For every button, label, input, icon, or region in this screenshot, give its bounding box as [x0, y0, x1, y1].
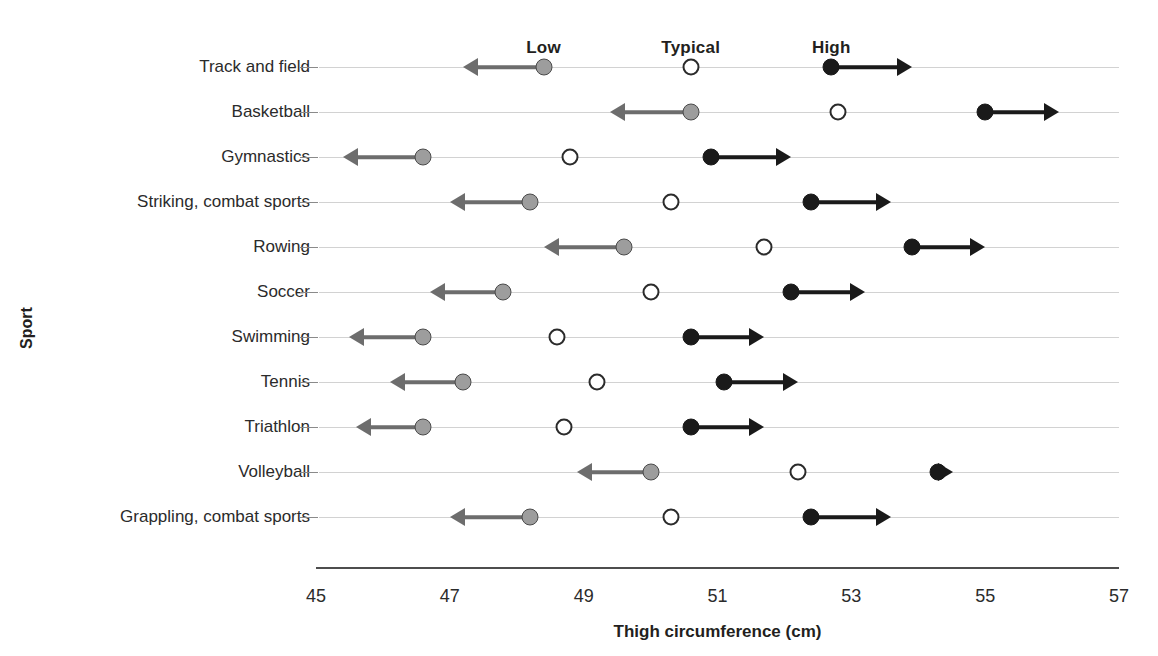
typical-marker: [829, 104, 846, 121]
high-arrow-head: [749, 418, 764, 436]
high-marker: [702, 149, 719, 166]
high-arrow-shaft: [691, 425, 753, 429]
high-arrow-head: [970, 238, 985, 256]
low-arrow-shaft: [589, 470, 651, 474]
low-marker: [615, 239, 632, 256]
high-arrow-shaft: [711, 155, 779, 159]
low-arrow-shaft: [442, 290, 504, 294]
low-marker: [415, 419, 432, 436]
typical-marker: [555, 419, 572, 436]
x-tick-label: 47: [440, 586, 460, 607]
low-arrow-shaft: [462, 515, 530, 519]
low-marker: [682, 104, 699, 121]
low-marker: [535, 59, 552, 76]
low-arrow-head: [450, 508, 465, 526]
high-marker: [823, 59, 840, 76]
row-gridline: [319, 67, 1119, 68]
high-arrow-shaft: [811, 200, 879, 204]
low-arrow-shaft: [475, 65, 543, 69]
column-header-high: High: [812, 38, 851, 58]
high-marker: [803, 194, 820, 211]
high-arrow-head: [938, 463, 953, 481]
x-tick-label: 51: [707, 586, 727, 607]
high-arrow-shaft: [938, 470, 939, 474]
high-marker: [783, 284, 800, 301]
high-arrow-head: [776, 148, 791, 166]
typical-marker: [662, 194, 679, 211]
category-label: Soccer: [257, 282, 314, 302]
low-arrow-shaft: [556, 245, 624, 249]
row-gridline: [319, 202, 1119, 203]
x-tick-label: 57: [1109, 586, 1129, 607]
low-arrow-shaft: [402, 380, 464, 384]
typical-marker: [756, 239, 773, 256]
high-arrow-head: [876, 508, 891, 526]
low-marker: [415, 149, 432, 166]
category-label: Striking, combat sports: [137, 192, 314, 212]
low-arrow-head: [450, 193, 465, 211]
category-label: Basketball: [232, 102, 314, 122]
chart-root: LowTypicalHigh Sport Track and fieldBask…: [0, 0, 1158, 656]
row-gridline: [319, 292, 1119, 293]
category-label: Track and field: [199, 57, 314, 77]
category-label: Rowing: [253, 237, 314, 257]
row-gridline: [319, 112, 1119, 113]
high-arrow-shaft: [831, 65, 899, 69]
low-arrow-head: [356, 418, 371, 436]
x-axis-line: [316, 567, 1119, 569]
column-header-low: Low: [526, 38, 561, 58]
category-label: Gymnastics: [221, 147, 314, 167]
high-marker: [682, 329, 699, 346]
high-marker: [903, 239, 920, 256]
x-tick-label: 45: [306, 586, 326, 607]
typical-marker: [589, 374, 606, 391]
row-gridline: [319, 247, 1119, 248]
category-label-column: Track and fieldBasketballGymnasticsStrik…: [0, 0, 314, 656]
low-arrow-shaft: [361, 335, 423, 339]
high-arrow-shaft: [912, 245, 974, 249]
high-arrow-shaft: [811, 515, 879, 519]
low-arrow-head: [577, 463, 592, 481]
row-gridline: [319, 382, 1119, 383]
high-marker: [716, 374, 733, 391]
category-label: Swimming: [232, 327, 314, 347]
column-header-typical: Typical: [661, 38, 720, 58]
high-arrow-shaft: [724, 380, 786, 384]
low-arrow-head: [544, 238, 559, 256]
row-gridline: [319, 157, 1119, 158]
low-arrow-shaft: [355, 155, 423, 159]
high-arrow-head: [897, 58, 912, 76]
high-arrow-head: [876, 193, 891, 211]
low-arrow-head: [343, 148, 358, 166]
high-arrow-head: [1044, 103, 1059, 121]
row-gridline: [319, 427, 1119, 428]
low-arrow-shaft: [368, 425, 423, 429]
high-arrow-head: [783, 373, 798, 391]
low-arrow-head: [349, 328, 364, 346]
typical-marker: [662, 509, 679, 526]
typical-marker: [642, 284, 659, 301]
low-arrow-head: [463, 58, 478, 76]
low-arrow-head: [390, 373, 405, 391]
low-marker: [522, 509, 539, 526]
low-marker: [455, 374, 472, 391]
typical-marker: [562, 149, 579, 166]
low-arrow-shaft: [462, 200, 530, 204]
low-marker: [495, 284, 512, 301]
high-marker: [977, 104, 994, 121]
typical-marker: [789, 464, 806, 481]
category-label: Triathlon: [244, 417, 314, 437]
typical-marker: [548, 329, 565, 346]
high-arrow-shaft: [985, 110, 1047, 114]
high-arrow-shaft: [791, 290, 853, 294]
high-arrow-head: [850, 283, 865, 301]
x-tick-label: 53: [841, 586, 861, 607]
x-axis-title: Thigh circumference (cm): [614, 622, 822, 642]
row-gridline: [319, 517, 1119, 518]
high-arrow-shaft: [691, 335, 753, 339]
category-label: Grappling, combat sports: [120, 507, 314, 527]
x-tick-label: 55: [975, 586, 995, 607]
low-arrow-head: [610, 103, 625, 121]
low-marker: [415, 329, 432, 346]
low-marker: [522, 194, 539, 211]
